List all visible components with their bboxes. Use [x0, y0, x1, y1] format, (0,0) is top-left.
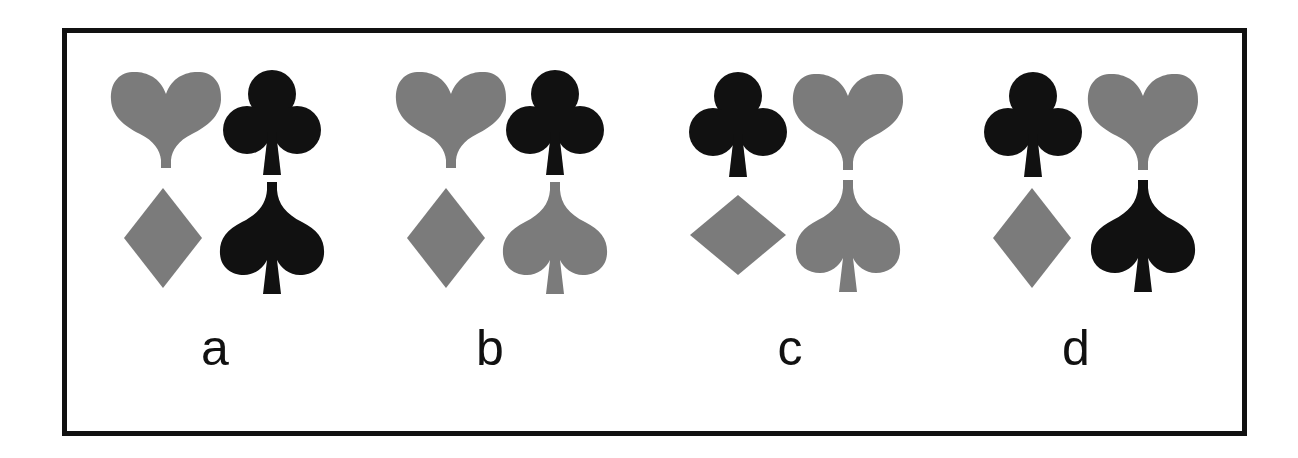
heart-icon: [111, 72, 221, 168]
option-d: [984, 72, 1198, 292]
option-label-a: a: [185, 318, 245, 378]
diamond-icon: [407, 188, 485, 288]
heart-icon: [396, 72, 506, 168]
option-label-d: d: [1046, 318, 1106, 378]
option-a: [111, 70, 324, 294]
option-label-c: c: [760, 318, 820, 378]
spade-icon: [503, 182, 607, 294]
diamond-icon: [690, 195, 786, 275]
club-icon: [689, 72, 787, 177]
option-c: [689, 72, 903, 292]
spade-icon: [796, 180, 900, 292]
option-b: [396, 70, 607, 294]
option-label-b: b: [460, 318, 520, 378]
club-icon: [506, 70, 604, 175]
heart-icon: [1088, 74, 1198, 170]
heart-icon: [793, 74, 903, 170]
diamond-icon: [993, 188, 1071, 288]
club-icon: [984, 72, 1082, 177]
suits-figure: [0, 0, 1298, 458]
spade-icon: [1091, 180, 1195, 292]
diamond-icon: [124, 188, 202, 288]
club-icon: [223, 70, 321, 175]
spade-icon: [220, 182, 324, 294]
